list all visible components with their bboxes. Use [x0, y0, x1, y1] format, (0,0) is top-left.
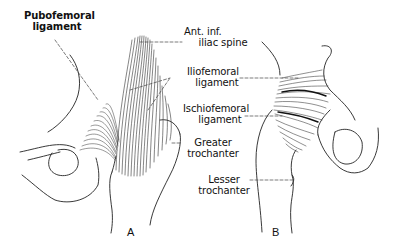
label-pubofemoral-line1: Pubofemoral	[24, 10, 90, 21]
label-pubofemoral-ligament: Pubofemoral ligament	[24, 10, 90, 32]
ischiofemoral-ligament-b	[274, 70, 330, 152]
figure-label-b: B	[272, 226, 279, 238]
label-ant-inf-line1: Ant. inf.	[182, 26, 252, 37]
label-lesser-trochanter: Lesser trochanter	[196, 174, 252, 196]
leader-pubofemoral	[55, 40, 98, 100]
figure-a-pelvis-outline	[20, 55, 99, 202]
label-greater-line2: trochanter	[185, 148, 241, 159]
label-ant-inf-iliac-spine: Ant. inf. iliac spine	[182, 26, 252, 48]
label-ant-inf-line2: iliac spine	[182, 37, 252, 48]
label-ischiofemoral-line1: Ischiofemoral	[182, 103, 250, 114]
label-greater-line1: Greater	[185, 137, 241, 148]
figure-b-femur-outline	[256, 110, 296, 233]
figure-b-pelvis-outline	[262, 42, 379, 173]
label-ischiofemoral-line2: ligament	[182, 114, 250, 125]
iliofemoral-ligament-a	[116, 36, 171, 176]
label-ischiofemoral-ligament: Ischiofemoral ligament	[182, 103, 250, 125]
label-iliofemoral-line2: ligament	[180, 77, 246, 88]
leader-iliofemoral-a2	[148, 78, 170, 110]
label-lesser-line1: Lesser	[196, 174, 252, 185]
pubofemoral-ligament-a	[80, 104, 119, 160]
label-iliofemoral-line1: Iliofemoral	[180, 66, 246, 77]
label-pubofemoral-line2: ligament	[24, 21, 90, 32]
label-lesser-line2: trochanter	[196, 185, 252, 196]
label-greater-trochanter: Greater trochanter	[185, 137, 241, 159]
figure-label-a: A	[127, 226, 134, 238]
label-iliofemoral-ligament: Iliofemoral ligament	[180, 66, 246, 88]
